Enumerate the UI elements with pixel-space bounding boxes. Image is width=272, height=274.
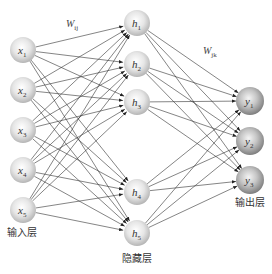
edge-x2-h4 [33, 99, 127, 183]
edge-x5-h3 [32, 112, 126, 201]
edge-x5-h5 [36, 213, 124, 231]
edge-x4-h4 [36, 172, 123, 189]
edge-h3-y3 [148, 109, 239, 172]
neural-network-diagram: x1x2x3x4x5h1h2h3h4h5y1y2y3 输入层隐藏层输出层WijW… [0, 0, 272, 274]
node-h2: h2 [124, 51, 150, 77]
network-nodes: x1x2x3x4x5h1h2h3h4h5y1y2y3 [10, 10, 264, 246]
node-x1: x1 [10, 37, 36, 63]
node-y3: y3 [236, 166, 264, 194]
node-x2: x2 [10, 77, 36, 103]
edge-h4-y2 [149, 147, 237, 187]
node-x3: x3 [10, 117, 36, 143]
edge-x1-h4 [31, 60, 128, 181]
weight-label-jk: Wjk [203, 45, 217, 59]
layer-label-hidden: 隐藏层 [122, 253, 152, 264]
node-x5: x5 [10, 197, 36, 223]
node-h5: h5 [124, 220, 150, 246]
layer-label-output: 输出层 [235, 196, 265, 208]
edge-h5-y3 [149, 186, 238, 228]
node-h1: h1 [124, 10, 150, 36]
edge-x2-h1 [34, 30, 125, 83]
edge-x1-h1 [36, 26, 124, 47]
edge-x2-h3 [36, 91, 123, 100]
edge-h2-y2 [148, 71, 239, 133]
edge-h5-y2 [147, 150, 239, 225]
edge-h1-y2 [146, 32, 240, 130]
node-h4: h4 [124, 179, 150, 205]
layer-label-input: 输入层 [7, 226, 37, 238]
edge-x3-h3 [36, 105, 124, 127]
node-y2: y2 [236, 127, 264, 155]
node-h3: h3 [124, 89, 150, 115]
weight-label-ij: Wij [66, 18, 78, 32]
node-y1: y1 [236, 87, 264, 115]
edge-h4-y1 [147, 110, 239, 184]
edge-x5-h4 [36, 194, 123, 208]
edge-h1-y1 [148, 30, 239, 93]
edge-h3-y1 [150, 101, 236, 102]
node-x4: x4 [10, 157, 36, 183]
edge-h4-y3 [150, 181, 236, 190]
edge-h2-y1 [149, 68, 236, 97]
